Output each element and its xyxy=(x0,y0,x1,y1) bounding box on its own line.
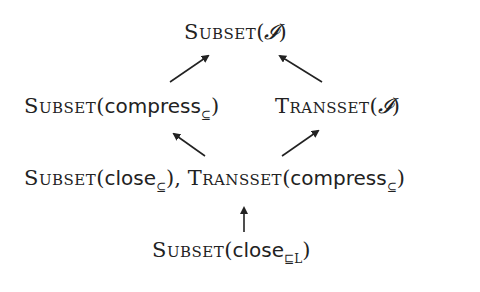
fn-close: close xyxy=(104,166,156,190)
op-subset: Subset xyxy=(24,94,96,118)
node-lower: Subset(close⊆), Transset(compress⊆) xyxy=(24,168,405,189)
subset-eq-subscript: ⊆ xyxy=(156,180,166,194)
fn-compress: compress xyxy=(104,94,200,118)
subset-eq-subscript: ⊆ xyxy=(387,180,397,194)
op-subset: Subset xyxy=(152,238,224,262)
node-top: Subset(𝓘) xyxy=(184,22,287,43)
fn-compress: compress xyxy=(290,166,386,190)
ideal-symbol: 𝓘 xyxy=(378,94,392,118)
node-mid-left: Subset(compress⊆) xyxy=(24,96,219,117)
op-transset: Transset xyxy=(275,94,370,118)
arrow-lower-to-midright xyxy=(282,131,318,156)
arrow-midright-to-top xyxy=(280,56,322,82)
subset-eq-subscript: ⊆ xyxy=(201,108,211,122)
sqsubset-eq-L-subscript: ⊑L xyxy=(284,252,302,266)
node-bottom: Subset(close⊑L) xyxy=(152,240,310,261)
ideal-symbol: 𝓘 xyxy=(264,20,278,44)
op-subset: Subset xyxy=(184,20,256,44)
node-mid-right: Transset(𝓘) xyxy=(275,96,400,117)
op-transset: Transset xyxy=(188,166,283,190)
arrow-lower-to-midleft xyxy=(174,134,205,156)
op-subset: Subset xyxy=(24,166,96,190)
arrow-midleft-to-top xyxy=(170,56,208,82)
fn-close: close xyxy=(232,238,284,262)
